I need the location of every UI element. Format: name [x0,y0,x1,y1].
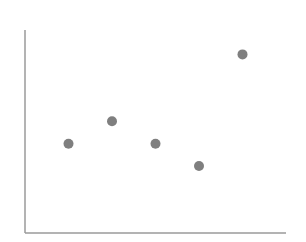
data-point [64,139,74,149]
data-point [151,139,161,149]
data-point [238,49,248,59]
data-point [194,161,204,171]
data-points [64,49,248,171]
scatter-chart [0,0,306,242]
data-point [107,116,117,126]
plot-area [0,0,306,242]
